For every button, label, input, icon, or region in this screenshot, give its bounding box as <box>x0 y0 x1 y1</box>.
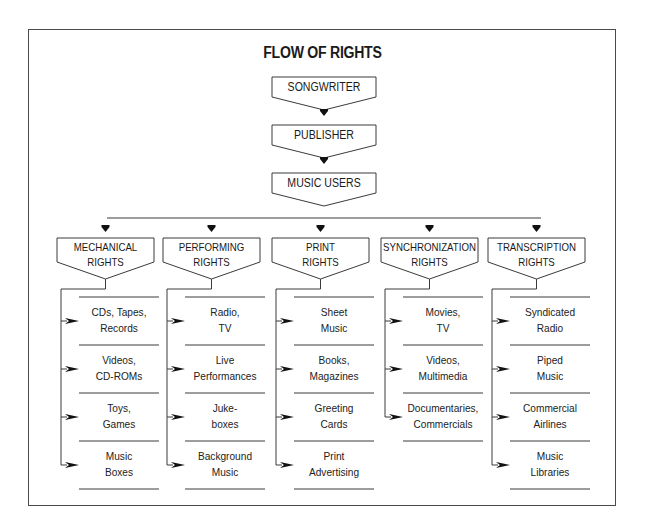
item-label-line1: CDs, Tapes, <box>75 304 163 320</box>
category-arrow-icon <box>102 225 110 232</box>
category-label-line2: RIGHTS <box>387 255 472 270</box>
category-label-line2: RIGHTS <box>278 255 363 270</box>
item-label-line1: Live <box>181 352 269 368</box>
item-label-line1: Sheet <box>290 304 378 320</box>
category-arrow-icon <box>426 225 434 232</box>
category-label-line2: RIGHTS <box>63 255 148 270</box>
item-label-line2: Music <box>181 464 269 480</box>
item-label-line1: Print <box>290 448 378 464</box>
item-label-line2: Airlines <box>506 416 594 432</box>
category-label-line1: TRANSCRIPTION <box>489 240 585 255</box>
item-label-line2: CD-ROMs <box>75 368 163 384</box>
item-label-line2: Records <box>75 320 163 336</box>
category-label-line1: PERFORMING <box>164 240 260 255</box>
chain-arrow-icon <box>320 109 328 116</box>
item-label-line2: Multimedia <box>399 368 487 384</box>
category-arrow-icon <box>317 225 325 232</box>
category-label-line2: RIGHTS <box>169 255 254 270</box>
chain-arrow-icon <box>320 157 328 164</box>
item-label-line1: Commercial <box>506 400 594 416</box>
item-label-line2: Radio <box>506 320 594 336</box>
item-label-line1: Background <box>181 448 269 464</box>
item-label-line2: Libraries <box>506 464 594 480</box>
item-label-line2: Magazines <box>290 368 378 384</box>
item-label-line2: Performances <box>181 368 269 384</box>
item-label-line1: Videos, <box>75 352 163 368</box>
item-label-line1: Music <box>506 448 594 464</box>
item-label-line1: Books, <box>290 352 378 368</box>
item-label-line2: boxes <box>181 416 269 432</box>
item-label-line1: Juke- <box>181 400 269 416</box>
chain-label: SONGWRITER <box>278 80 370 94</box>
item-label-line1: Piped <box>506 352 594 368</box>
category-label-line1: SYNCHRONIZATION <box>382 240 478 255</box>
item-label-line1: Movies, <box>399 304 487 320</box>
category-arrow-icon <box>208 225 216 232</box>
item-label-line2: Music <box>290 320 378 336</box>
category-label-line2: RIGHTS <box>494 255 579 270</box>
item-label-line1: Radio, <box>181 304 269 320</box>
item-label-line1: Videos, <box>399 352 487 368</box>
chain-label: MUSIC USERS <box>278 176 370 190</box>
chain-label: PUBLISHER <box>278 128 370 142</box>
category-arrow-icon <box>533 225 541 232</box>
category-label-line1: MECHANICAL <box>58 240 154 255</box>
item-label-line1: Syndicated <box>506 304 594 320</box>
item-label-line2: TV <box>181 320 269 336</box>
item-label-line2: TV <box>399 320 487 336</box>
item-label-line2: Cards <box>290 416 378 432</box>
category-label-line1: PRINT <box>273 240 369 255</box>
item-label-line1: Documentaries, <box>399 400 487 416</box>
item-label-line2: Music <box>506 368 594 384</box>
item-label-line1: Toys, <box>75 400 163 416</box>
item-label-line1: Music <box>75 448 163 464</box>
item-label-line2: Games <box>75 416 163 432</box>
item-label-line2: Boxes <box>75 464 163 480</box>
item-label-line1: Greeting <box>290 400 378 416</box>
item-label-line2: Advertising <box>290 464 378 480</box>
item-label-line2: Commercials <box>399 416 487 432</box>
